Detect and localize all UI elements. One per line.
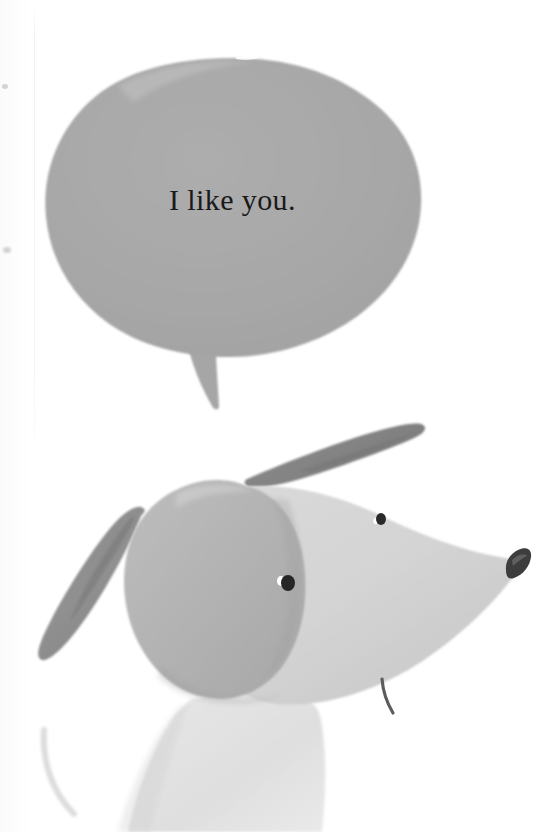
speech-bubble [45,56,421,409]
dog-illustration [38,424,531,832]
eye-near-pupil [281,575,295,591]
illustration-artwork [0,0,542,832]
speech-bubble-text: I like you. [0,183,465,217]
illustration-page: I like you. [0,0,542,832]
eye-far-pupil [376,513,386,525]
dog-ear-left-shade [70,516,134,622]
dog-nose [506,548,531,578]
dog-mouth-line [382,679,393,713]
dog-ear-upper [245,424,425,488]
dog-tail-wisp [44,730,74,814]
